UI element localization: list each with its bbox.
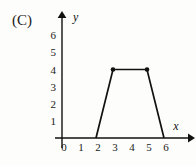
y-axis-arrow-icon <box>58 11 67 18</box>
y-tick-label-3: 3 <box>51 81 57 93</box>
coordinate-plot: x y 1 2 3 4 5 6 0 1 2 3 4 5 6 <box>0 0 196 166</box>
x-tick-label-0: 0 <box>61 141 67 153</box>
y-tick-label-5: 5 <box>51 46 57 58</box>
figure-container: (C) x y 1 2 3 4 5 6 0 1 2 3 4 5 6 <box>0 0 196 166</box>
x-tick-labels: 0 1 2 3 4 5 6 <box>61 141 169 153</box>
y-tick-label-2: 2 <box>51 98 57 110</box>
x-axis-arrow-icon <box>188 134 195 143</box>
x-tick-label-4: 4 <box>129 141 135 153</box>
trapezoid-path <box>96 70 164 139</box>
data-series-trapezoid <box>96 67 164 138</box>
x-tick-label-5: 5 <box>146 141 152 153</box>
y-tick-label-1: 1 <box>51 115 57 127</box>
x-axis-label: x <box>172 119 179 133</box>
x-tick-label-3: 3 <box>112 141 118 153</box>
x-tick-label-1: 1 <box>78 141 84 153</box>
y-axis-group <box>58 11 67 148</box>
y-tick-label-4: 4 <box>51 64 57 76</box>
vertex-dot-left <box>111 67 116 72</box>
x-axis-group <box>55 134 195 143</box>
vertex-dot-right <box>145 67 150 72</box>
y-axis-label: y <box>72 10 79 24</box>
x-tick-label-2: 2 <box>95 141 101 153</box>
y-tick-label-6: 6 <box>51 29 57 41</box>
x-tick-label-6: 6 <box>163 141 169 153</box>
y-tick-labels: 1 2 3 4 5 6 <box>51 29 57 127</box>
